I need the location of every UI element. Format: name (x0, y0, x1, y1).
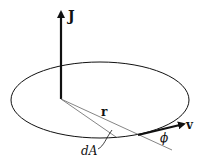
radius-line (61, 99, 172, 150)
label-da: dA (81, 144, 98, 158)
label-v: v (185, 118, 194, 132)
area-edge-line (61, 99, 116, 137)
label-r: r (101, 105, 108, 119)
orbit-diagram: J r v dA ϕ (0, 0, 206, 161)
label-j: J (66, 8, 75, 24)
area-pointer-curve (98, 130, 112, 149)
orbit-ellipse (11, 62, 189, 138)
label-phi: ϕ (160, 131, 168, 145)
